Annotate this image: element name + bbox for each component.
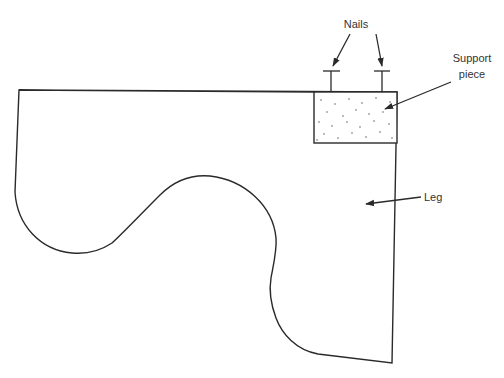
nails-arrow-right: [376, 34, 382, 66]
leg-label: Leg: [424, 191, 442, 203]
leg-arrow: [366, 197, 421, 204]
nail-left: [323, 71, 340, 92]
support-piece: [314, 92, 397, 143]
support-label-line2: piece: [459, 68, 485, 80]
support-label-line1: Support: [453, 52, 492, 64]
nail-right: [374, 71, 390, 92]
nails-label: Nails: [344, 18, 369, 30]
leg-diagram: Nails Support piece Leg: [0, 0, 504, 378]
nails-arrow-left: [333, 34, 350, 66]
